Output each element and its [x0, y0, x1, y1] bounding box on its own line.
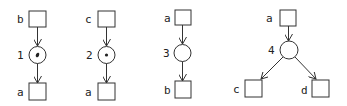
transition-circle	[280, 41, 298, 59]
place-label: d	[301, 84, 308, 97]
input-place-box	[175, 10, 191, 25]
arc-arrow	[295, 57, 316, 79]
output-place-box	[29, 83, 46, 100]
diagram-1: b 1 a	[17, 11, 46, 100]
place-label: b	[164, 84, 171, 97]
input-place-box	[98, 11, 115, 27]
transition-circle	[174, 45, 191, 62]
diagram-2: c 2 a	[85, 11, 115, 100]
input-place-box	[280, 10, 296, 26]
place-label: c	[85, 13, 92, 26]
output-place-box	[245, 80, 262, 97]
input-place-box	[29, 11, 46, 27]
transition-label: 1	[17, 49, 24, 62]
place-label: a	[266, 12, 273, 25]
transition-label: 4	[268, 44, 275, 57]
place-label: a	[17, 86, 24, 99]
diagram-canvas: b 1 a c 2 a a 3 b a 4	[0, 0, 347, 106]
transition-label: 2	[86, 49, 93, 62]
place-label: b	[17, 13, 24, 26]
place-label: a	[164, 12, 171, 25]
output-place-box	[312, 80, 329, 97]
arc-arrow	[261, 57, 283, 79]
diagram-4: a 4 c d	[233, 10, 329, 97]
output-place-box	[98, 83, 115, 100]
token-dot-icon	[105, 53, 108, 56]
place-label: a	[85, 86, 92, 99]
transition-label: 3	[163, 47, 170, 60]
place-label: c	[233, 83, 240, 96]
diagram-3: a 3 b	[163, 10, 191, 98]
output-place-box	[175, 81, 191, 98]
